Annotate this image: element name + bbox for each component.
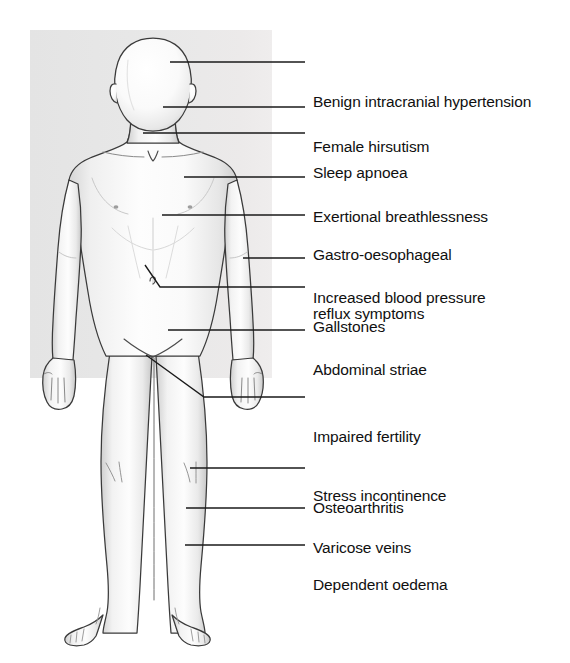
left-hand bbox=[43, 358, 76, 409]
label-line: Impaired fertility bbox=[313, 427, 446, 447]
obesity-complications-figure: Benign intracranial hypertension Female … bbox=[0, 0, 570, 663]
head bbox=[115, 38, 192, 131]
label-line: Abdominal striae bbox=[313, 360, 427, 380]
left-leg bbox=[101, 352, 152, 633]
label-dependent-oedema: Dependent oedema bbox=[313, 536, 448, 634]
left-nipple bbox=[114, 205, 119, 209]
right-nipple bbox=[188, 205, 193, 209]
right-hand bbox=[231, 358, 264, 409]
label-line: Dependent oedema bbox=[313, 575, 448, 595]
